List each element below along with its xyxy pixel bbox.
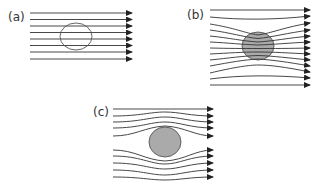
panel-b bbox=[210, 10, 310, 85]
field-lines-diagram bbox=[0, 0, 323, 188]
object-shaded bbox=[149, 127, 181, 157]
panel-c bbox=[113, 109, 213, 180]
panel-a bbox=[30, 13, 132, 59]
